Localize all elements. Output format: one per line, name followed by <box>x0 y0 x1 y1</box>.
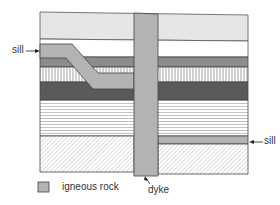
diagonal-hatch-layer-left <box>40 136 134 172</box>
dyke <box>134 13 158 176</box>
diagonal-hatch-layer-right <box>158 144 248 174</box>
right-sill <box>158 136 248 144</box>
sill-left-arrowhead <box>35 49 40 53</box>
geology-cross-section <box>0 0 280 205</box>
sill-left-label: sill <box>12 44 24 55</box>
sill-right-label: sill <box>264 135 276 146</box>
legend-swatch-igneous <box>38 182 49 192</box>
sill-right-arrowhead <box>249 140 254 144</box>
legend-label-igneous: igneous rock <box>62 181 119 192</box>
dyke-arrowhead <box>144 176 148 181</box>
dyke-label: dyke <box>148 184 169 195</box>
